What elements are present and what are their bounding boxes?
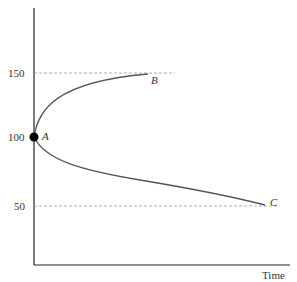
label-c: C [270,196,278,208]
y-tick-100: 100 [8,131,25,143]
point-a-marker [30,133,39,142]
label-a: A [41,130,49,142]
label-b: B [151,74,158,86]
y-tick-50: 50 [14,200,26,212]
curve-b [34,74,148,137]
x-axis-label: Time [262,269,285,281]
y-tick-150: 150 [8,67,25,79]
chart: 150 100 50 A B C Time [0,0,297,282]
curve-c [34,137,265,205]
